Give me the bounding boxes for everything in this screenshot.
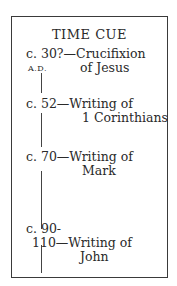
era-label: A.D.: [28, 64, 47, 73]
dash: —: [57, 96, 70, 111]
entry-event: Crucifixion: [76, 46, 146, 61]
entry-event: Writing of: [69, 96, 132, 111]
dash: —: [64, 46, 77, 61]
entry-date-cont: 110: [32, 235, 56, 250]
dash: —: [57, 149, 70, 164]
entry-event-cont: John: [26, 250, 132, 264]
entry-event: Writing of: [69, 149, 132, 164]
timeline-line: [41, 73, 42, 93]
entry-date: c. 30?: [26, 46, 64, 61]
entry-event: Writing of: [68, 235, 131, 250]
timeline-entry: c. 90- 110—Writing of John: [26, 222, 132, 264]
time-cue-box: TIME CUE c. 30?—Crucifixion of Jesus A.D…: [11, 16, 168, 278]
entry-event-cont: Mark: [26, 164, 133, 178]
entry-date: c. 90-: [26, 221, 61, 236]
entry-date: c. 52: [26, 96, 57, 111]
entry-event-cont: 1 Corinthians: [26, 111, 168, 125]
entry-date: c. 70: [26, 149, 57, 164]
title: TIME CUE: [12, 27, 167, 42]
timeline-entry: c. 70—Writing of Mark: [26, 150, 133, 178]
dash: —: [56, 235, 69, 250]
timeline-entry: c. 52—Writing of 1 Corinthians: [26, 97, 168, 125]
